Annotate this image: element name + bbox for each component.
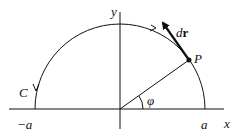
- vector-label: dr: [176, 25, 189, 40]
- radius-line: [120, 60, 189, 109]
- semicircle-diagram: y x −a a C P φ dr: [0, 0, 241, 135]
- curve-direction-arrow-icon: [150, 25, 156, 31]
- vector-r: r: [183, 25, 189, 40]
- x-axis-label: x: [223, 116, 230, 131]
- point-label: P: [193, 51, 202, 66]
- y-axis-label: y: [109, 4, 117, 19]
- curve-label: C: [19, 85, 28, 100]
- pos-a-label: a: [201, 117, 208, 132]
- angle-arc: [139, 96, 143, 109]
- neg-a-label: −a: [17, 117, 33, 132]
- angle-label: φ: [147, 93, 154, 108]
